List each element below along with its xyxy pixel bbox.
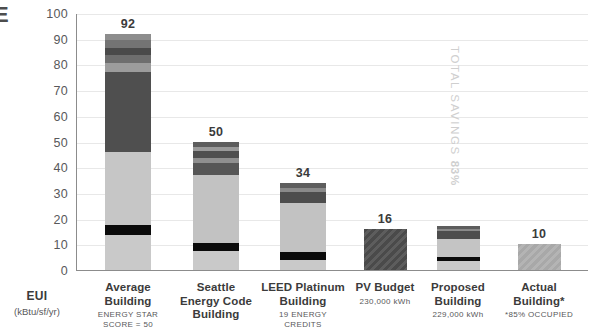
bar-value-label: 92 xyxy=(105,17,151,31)
bar-segment xyxy=(437,231,480,239)
bar-value-label: 10 xyxy=(518,227,561,241)
bar-segment xyxy=(105,225,151,235)
bar-segment xyxy=(105,48,151,56)
bar-segment xyxy=(280,260,326,270)
gridline-70 xyxy=(77,91,588,92)
bar-segment xyxy=(105,40,151,48)
bar-segment xyxy=(280,252,326,260)
bar-average-building[interactable] xyxy=(105,34,151,270)
plot-area: 0102030405060708090100 9250341610 xyxy=(76,14,588,271)
bar-pv-budget[interactable] xyxy=(364,229,407,270)
x-axis-label-actual: ActualBuilding**85% OCCUPIED xyxy=(481,281,596,320)
bar-segment xyxy=(280,203,326,252)
bar-segment xyxy=(518,244,561,270)
gridline-90 xyxy=(77,40,588,41)
x-label-subtitle: *85% OCCUPIED xyxy=(481,310,596,319)
bar-value-label: 34 xyxy=(280,166,326,180)
gridline-100 xyxy=(77,14,588,15)
bar-segment xyxy=(437,239,480,257)
gridline-50 xyxy=(77,143,588,144)
axis-title-main: EUI xyxy=(0,289,74,303)
cropped-letter-e: E xyxy=(0,4,9,26)
bar-segment xyxy=(105,63,151,72)
bar-segment xyxy=(105,72,151,152)
bar-seattle-energy-code-building[interactable] xyxy=(193,142,239,271)
bar-segment xyxy=(280,192,326,204)
y-axis-tick-40: 40 xyxy=(14,161,68,175)
x-label-title: ActualBuilding* xyxy=(481,281,596,308)
gridline-30 xyxy=(77,194,588,195)
y-axis-line xyxy=(76,14,77,271)
bar-segment xyxy=(105,55,151,63)
y-axis-tick-80: 80 xyxy=(14,58,68,72)
y-axis-tick-70: 70 xyxy=(14,84,68,98)
axis-title: EUI (kBtu/sf/yr) xyxy=(0,289,74,317)
bar-value-label: 16 xyxy=(364,212,407,226)
bar-proposed-building[interactable] xyxy=(437,226,480,270)
y-axis-tick-50: 50 xyxy=(14,136,68,150)
gridline-60 xyxy=(77,117,588,118)
savings-percent: 83% xyxy=(449,161,461,186)
y-axis-tick-20: 20 xyxy=(14,213,68,227)
y-axis-tick-60: 60 xyxy=(14,110,68,124)
bar-segment xyxy=(437,261,480,270)
y-axis-tick-labels: 0102030405060708090100 xyxy=(14,14,68,271)
bar-segment xyxy=(193,251,239,270)
chart-root: E 0102030405060708090100 9250341610 TOTA… xyxy=(0,0,596,331)
y-axis-tick-90: 90 xyxy=(14,33,68,47)
gridline-10 xyxy=(77,245,588,246)
bar-segment xyxy=(193,243,239,251)
bar-segment xyxy=(364,229,407,270)
bar-leed-platinum-building[interactable] xyxy=(280,183,326,270)
y-axis-tick-100: 100 xyxy=(14,7,68,21)
x-label-subtitle: 19 ENERGYCREDITS xyxy=(245,310,361,329)
x-axis-labels: AverageBuildingENERGY STARSCORE = 50Seat… xyxy=(0,277,596,331)
gridline-40 xyxy=(77,168,588,169)
bar-segment xyxy=(193,163,239,175)
bar-segment xyxy=(193,151,239,159)
savings-text: TOTAL SAVINGS xyxy=(449,46,461,161)
bar-actual-building[interactable] xyxy=(518,244,561,270)
bar-segment xyxy=(105,235,151,270)
bar-segment xyxy=(105,152,151,225)
y-axis-tick-10: 10 xyxy=(14,238,68,252)
gridline-80 xyxy=(77,65,588,66)
y-axis-tick-0: 0 xyxy=(14,264,68,278)
bar-value-label: 50 xyxy=(193,125,239,139)
axis-title-sub: (kBtu/sf/yr) xyxy=(0,306,74,317)
bar-segment xyxy=(193,175,239,243)
total-savings-annotation: TOTAL SAVINGS 83% xyxy=(449,46,461,186)
gridline-20 xyxy=(77,220,588,221)
y-axis-tick-30: 30 xyxy=(14,187,68,201)
x-axis-line xyxy=(76,270,588,271)
